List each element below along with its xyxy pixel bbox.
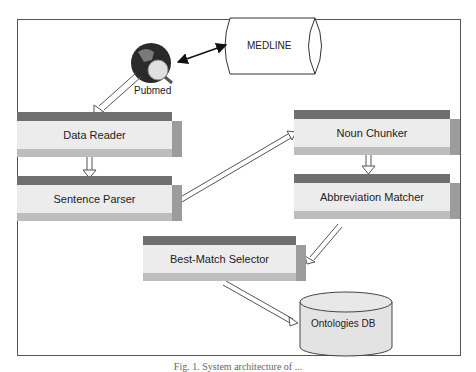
medline-label: MEDLINE — [247, 40, 291, 51]
pubmed-label: Pubmed — [134, 85, 171, 96]
figure-caption: Fig. 1. System architecture of ... — [0, 361, 476, 372]
sentence-parser-box: Sentence Parser — [17, 176, 182, 221]
pubmed-medline-arrow — [178, 45, 226, 62]
abbreviation-matcher-label: Abbreviation Matcher — [294, 183, 450, 211]
abbreviation-matcher-box: Abbreviation Matcher — [294, 174, 460, 219]
best-match-selector-label: Best-Match Selector — [143, 245, 296, 273]
noun-chunker-box: Noun Chunker — [294, 110, 460, 155]
pubmed-globe-icon — [131, 43, 172, 83]
data-reader-box: Data Reader — [17, 112, 182, 157]
noun-chunker-label: Noun Chunker — [294, 119, 450, 147]
ontologies-db-label: Ontologies DB — [311, 318, 375, 329]
sentence-parser-label: Sentence Parser — [17, 185, 172, 213]
data-reader-label: Data Reader — [17, 121, 172, 149]
best-match-selector-box: Best-Match Selector — [143, 236, 306, 281]
